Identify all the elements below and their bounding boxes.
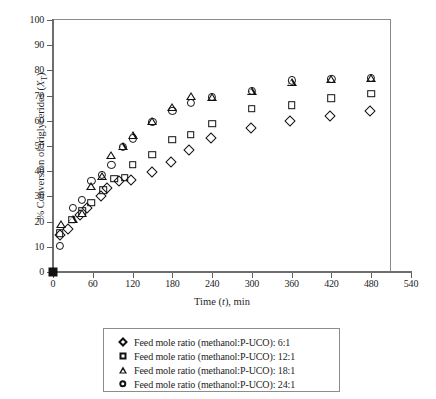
y-tick-label: 0	[39, 267, 44, 277]
legend-item[interactable]: Feed mole ratio (methanol:P-UCO): 24:1	[116, 377, 295, 391]
y-axis-title-pre: % Conversion of triglycerides (	[35, 87, 46, 219]
y-axis-title: % Conversion of triglycerides (XT)	[35, 26, 49, 266]
x-tick-label: 240	[205, 279, 219, 289]
y-axis-title-post: )	[35, 73, 46, 77]
legend-item[interactable]: Feed mole ratio (methanol:P-UCO): 6:1	[116, 335, 290, 349]
y-axis-title-sub: T	[40, 76, 49, 81]
origin-marker-cluster	[49, 268, 58, 277]
legend-square-icon	[116, 349, 130, 363]
square-marker-icon	[120, 353, 127, 360]
x-tick-label: 120	[125, 279, 139, 289]
plot-area	[53, 19, 391, 272]
x-tick-label: 360	[284, 279, 298, 289]
x-tick-label: 480	[364, 279, 378, 289]
x-axis-title-pre: Time (	[194, 296, 222, 307]
legend-item-label: Feed mole ratio (methanol:P-UCO): 6:1	[130, 337, 290, 348]
legend-item-label: Feed mole ratio (methanol:P-UCO): 18:1	[130, 365, 295, 376]
chart-figure: 0102030405060708090100 06012018024030036…	[0, 0, 436, 399]
x-axis-line	[52, 271, 412, 273]
x-tick-label: 420	[324, 279, 338, 289]
legend-circle-icon	[116, 377, 130, 391]
y-axis-title-var: X	[35, 81, 46, 87]
x-axis-title: Time (t), min	[53, 296, 391, 307]
x-axis-title-post: ), min	[225, 296, 250, 307]
diamond-marker-icon	[118, 337, 128, 347]
x-tick-label: 300	[245, 279, 259, 289]
legend-item-label: Feed mole ratio (methanol:P-UCO): 12:1	[130, 351, 295, 362]
legend: Feed mole ratio (methanol:P-UCO): 6:1Fee…	[103, 328, 340, 392]
legend-item[interactable]: Feed mole ratio (methanol:P-UCO): 18:1	[116, 363, 295, 377]
triangle-marker-icon	[119, 367, 127, 374]
legend-item[interactable]: Feed mole ratio (methanol:P-UCO): 12:1	[116, 349, 295, 363]
x-tick-label: 0	[51, 279, 56, 289]
circle-marker-icon	[119, 380, 126, 387]
x-tick-label: 540	[404, 279, 418, 289]
legend-diamond-icon	[116, 335, 130, 349]
x-tick-label: 180	[165, 279, 179, 289]
legend-triangle-icon	[116, 363, 130, 377]
x-tick-label: 60	[88, 279, 98, 289]
legend-item-label: Feed mole ratio (methanol:P-UCO): 24:1	[130, 379, 295, 390]
y-tick-label: 100	[30, 15, 44, 25]
y-tick	[47, 20, 53, 21]
